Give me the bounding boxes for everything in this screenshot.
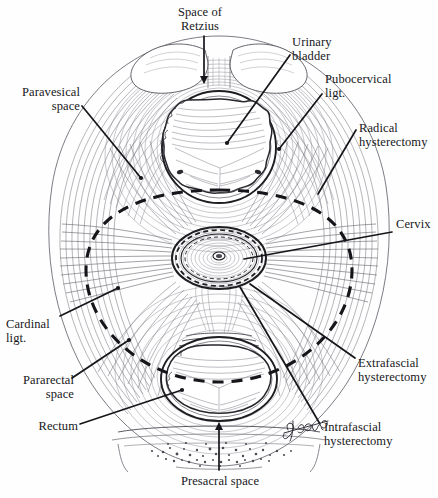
- label-extrafascial-hysterectomy: Extrafascial hysterectomy: [358, 357, 438, 384]
- label-radical-hysterectomy: Radical hysterectomy: [359, 122, 438, 149]
- figure-canvas: Space of Retzius Urinary bladder Pubocer…: [0, 0, 438, 498]
- label-pararectal-space: Pararectal space: [0, 374, 74, 401]
- label-rectum: Rectum: [0, 420, 78, 434]
- label-presacral-space: Presacral space: [150, 475, 290, 489]
- urinary-bladder: [161, 91, 277, 203]
- label-cardinal-ligament: Cardinal ligt.: [6, 318, 86, 345]
- label-intrafascial-hysterectomy: Intrafascial hysterectomy: [324, 421, 438, 448]
- label-cervix: Cervix: [396, 218, 438, 232]
- label-space-of-retzius: Space of Retzius: [148, 6, 252, 33]
- label-paravesical-space: Paravesical space: [0, 86, 80, 113]
- label-pubocervical-ligament: Pubocervical ligt.: [325, 73, 437, 100]
- artist-signature: [283, 421, 328, 441]
- label-urinary-bladder: Urinary bladder: [292, 36, 412, 63]
